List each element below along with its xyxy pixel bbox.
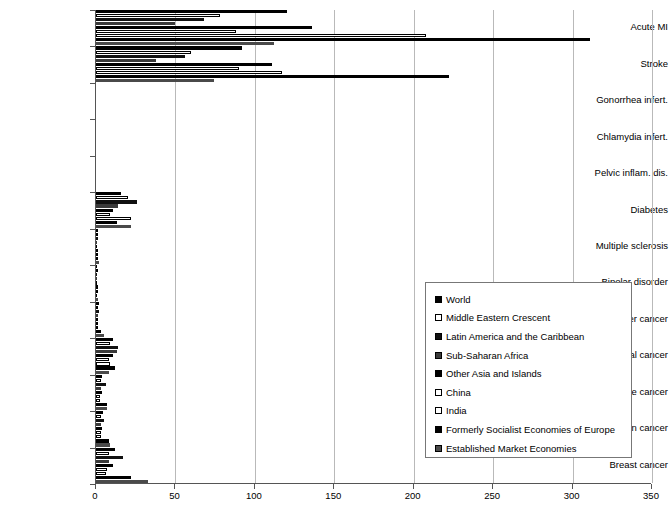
legend-item[interactable]: Formerly Socialist Economies of Europe	[435, 420, 631, 439]
x-axis-label-50: 50	[154, 490, 194, 501]
x-axis-label-200: 200	[393, 490, 433, 501]
bar	[96, 427, 102, 430]
bar	[96, 366, 115, 369]
bar	[96, 71, 282, 74]
legend-swatch-icon	[435, 296, 442, 303]
bar	[96, 326, 98, 329]
bar	[96, 67, 239, 70]
legend-item[interactable]: Other Asia and Islands	[435, 364, 631, 383]
bar	[96, 423, 101, 426]
bar	[96, 245, 97, 248]
legend-swatch-icon	[435, 426, 442, 433]
bar	[96, 42, 274, 45]
gridline-350	[652, 10, 653, 483]
bar-group	[96, 192, 651, 228]
bar	[96, 46, 242, 49]
legend-item[interactable]: Sub-Saharan Africa	[435, 346, 631, 365]
bar	[96, 213, 110, 216]
bar	[96, 415, 101, 418]
bar	[96, 314, 98, 317]
bar	[96, 456, 123, 459]
bar-row	[96, 480, 651, 484]
legend-item[interactable]: Established Market Economies	[435, 439, 631, 458]
bar	[96, 395, 100, 398]
bar	[96, 59, 156, 62]
bar	[96, 229, 98, 232]
bar	[96, 10, 287, 13]
bar	[96, 34, 426, 37]
legend-label: China	[446, 387, 471, 398]
legend-swatch-icon	[435, 352, 442, 359]
bar	[96, 375, 102, 378]
bar	[96, 209, 113, 212]
bar-group	[96, 83, 651, 119]
bar-group	[96, 10, 651, 46]
x-axis-label-350: 350	[631, 490, 671, 501]
bar	[96, 302, 99, 305]
legend-item[interactable]: Middle Eastern Crescent	[435, 309, 631, 328]
bar	[96, 221, 117, 224]
x-axis-label-100: 100	[234, 490, 274, 501]
x-axis-tick-350	[651, 484, 652, 489]
legend-label: World	[446, 294, 471, 305]
legend-swatch-icon	[435, 389, 442, 396]
bar	[96, 468, 107, 471]
bar	[96, 55, 185, 58]
legend-swatch-icon	[435, 314, 442, 321]
bar	[96, 285, 98, 288]
bar	[96, 322, 98, 325]
bar	[96, 261, 99, 264]
bar	[96, 452, 109, 455]
bar	[96, 310, 99, 313]
legend-item[interactable]: China	[435, 383, 631, 402]
legend-swatch-icon	[435, 407, 442, 414]
legend-label: Sub-Saharan Africa	[446, 350, 528, 361]
bar	[96, 334, 104, 337]
legend-swatch-icon	[435, 445, 442, 452]
bar	[96, 407, 107, 410]
bar	[96, 63, 272, 66]
legend-item[interactable]: World	[435, 290, 631, 309]
legend-item[interactable]: India	[435, 402, 631, 421]
bar	[96, 233, 98, 236]
legend-item[interactable]: Latin America and the Caribbean	[435, 327, 631, 346]
bar	[96, 38, 590, 41]
bar	[96, 14, 220, 17]
x-axis-label-300: 300	[552, 490, 592, 501]
bar	[96, 253, 98, 256]
bar	[96, 354, 113, 357]
bar	[96, 472, 106, 475]
legend-label: Other Asia and Islands	[446, 368, 542, 379]
bar	[96, 371, 109, 374]
bar	[96, 75, 449, 78]
bar	[96, 362, 110, 365]
bar	[96, 22, 175, 25]
bar	[96, 196, 128, 199]
bar	[96, 237, 98, 240]
bar	[96, 298, 98, 301]
x-axis-tick-300	[572, 484, 573, 489]
bar	[96, 225, 131, 228]
bar	[96, 26, 312, 29]
bar	[96, 249, 98, 252]
x-axis-label-150: 150	[313, 490, 353, 501]
legend-swatch-icon	[435, 333, 442, 340]
bar	[96, 330, 101, 333]
legend-label: Middle Eastern Crescent	[446, 312, 550, 323]
x-axis-label-0: 0	[75, 490, 115, 501]
bar	[96, 342, 110, 345]
bar	[96, 294, 97, 297]
bar	[96, 383, 106, 386]
bar	[96, 273, 97, 276]
bar	[96, 419, 104, 422]
bar	[96, 439, 109, 442]
bar-group	[96, 119, 651, 155]
bar	[96, 318, 98, 321]
bar	[96, 269, 98, 272]
x-axis-tick-150	[333, 484, 334, 489]
bar	[96, 51, 191, 54]
bar	[96, 18, 204, 21]
chart-legend: WorldMiddle Eastern CrescentLatin Americ…	[425, 282, 632, 458]
x-axis-tick-100	[254, 484, 255, 489]
